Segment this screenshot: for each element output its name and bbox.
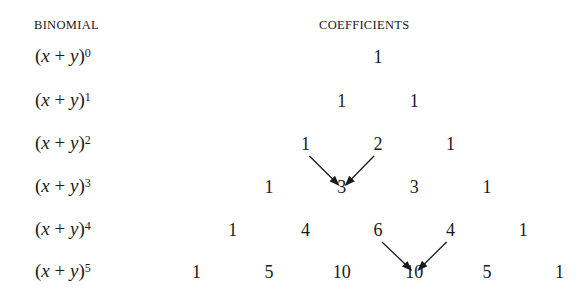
arrow [382,242,411,270]
arrow [346,156,374,185]
arrow [309,156,338,185]
arrows-layer [0,0,587,298]
arrow [418,242,446,270]
